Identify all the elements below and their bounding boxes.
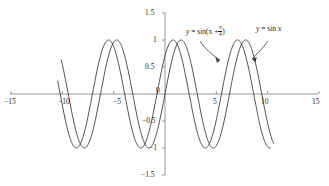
- y-tick-label-1: 1: [153, 36, 157, 44]
- y-tick-label-0p5: 0.5: [145, 63, 154, 71]
- y-tick-label-minus0p5: −0.5: [142, 117, 156, 125]
- label-sin-x: y = sin x: [256, 25, 281, 33]
- label-shifted-y: y: [186, 27, 189, 36]
- y-tick-label-minus1: −1: [149, 144, 157, 152]
- x-tick-label-15: 15: [312, 98, 320, 106]
- label-plain-y: y: [256, 24, 259, 33]
- x-tick-label-minus5: −5: [113, 98, 121, 106]
- x-tick-label-10: 10: [261, 98, 269, 106]
- origin-label: 0: [156, 87, 160, 95]
- sine-curves-figure: −15 −10 −5 5 10 15 0 1.5 1 0.5 −0.5 −1 −…: [0, 0, 329, 186]
- arrow-to-shifted-curve: [200, 41, 220, 60]
- x-tick-label-minus10: −10: [58, 98, 70, 106]
- x-tick-label-5: 5: [213, 98, 217, 106]
- label-sin-x-plus-pi-over-4: y = sin(x +π4): [186, 25, 225, 37]
- label-shifted-equals: = sin(x +: [191, 27, 218, 36]
- label-shifted-suffix: ): [222, 27, 225, 36]
- y-tick-label-1p5: 1.5: [145, 9, 154, 17]
- arrow-to-plain-curve: [252, 41, 268, 59]
- label-plain-equals: = sin: [261, 24, 276, 33]
- label-plain-var: x: [278, 24, 281, 33]
- axes-group: [10, 13, 318, 175]
- y-tick-label-minus1p5: −1.5: [141, 171, 155, 179]
- annotation-arrows: [200, 41, 268, 63]
- x-tick-label-minus15: −15: [4, 98, 16, 106]
